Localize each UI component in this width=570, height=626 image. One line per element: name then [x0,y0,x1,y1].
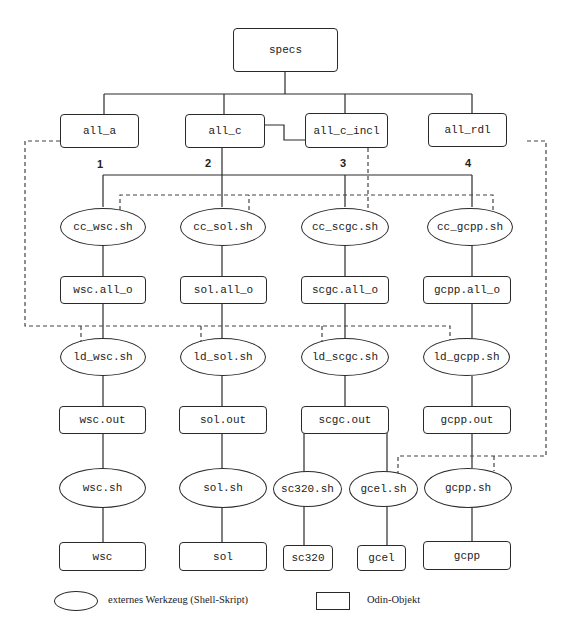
node-gcpp-all-o: gcpp.all_o [423,276,511,304]
node-all-c: all_c [185,114,265,148]
tool-gcpp-sh: gcpp.sh [424,468,512,508]
node-sol-all-o: sol.all_o [180,276,267,304]
node-specs: specs [233,28,338,72]
tool-ld-scgc: ld_scgc.sh [301,338,389,376]
build-dependency-diagram: specs all_a all_c all_c_incl all_rdl 1 2… [0,0,570,626]
node-gcpp: gcpp [423,541,511,570]
tool-gcel-sh: gcel.sh [349,471,418,507]
node-sol: sol [179,542,267,571]
legend-ellipse-icon [54,591,98,611]
node-wsc: wsc [59,542,146,571]
branch-number-2: 2 [205,157,211,169]
tool-cc-sol: cc_sol.sh [180,208,266,246]
node-scgc-out: scgc.out [301,406,389,434]
tool-ld-wsc: ld_wsc.sh [60,338,146,376]
node-wsc-all-o: wsc.all_o [60,276,146,304]
node-all-c-incl: all_c_incl [305,113,388,148]
connector-lines [0,0,570,626]
legend-ellipse-label: externes Werkzeug (Shell-Skript) [108,594,248,605]
node-all-a: all_a [60,114,139,148]
node-wsc-out: wsc.out [59,406,146,434]
node-scgc-all-o: scgc.all_o [301,276,389,304]
tool-cc-wsc: cc_wsc.sh [60,208,146,246]
legend-box-icon [316,592,350,610]
branch-number-1: 1 [97,158,103,170]
tool-cc-gcpp: cc_gcpp.sh [427,208,513,246]
node-sc320: sc320 [283,545,333,571]
legend-box-label: Odin-Objekt [367,594,420,605]
tool-ld-gcpp: ld_gcpp.sh [423,338,510,376]
tool-sol-sh: sol.sh [179,468,267,508]
tool-cc-scgc: cc_scgc.sh [301,208,389,246]
node-gcel: gcel [357,545,406,571]
tool-ld-sol: ld_sol.sh [180,338,266,376]
node-all-rdl: all_rdl [428,113,507,147]
node-gcpp-out: gcpp.out [423,406,511,434]
tool-sc320-sh: sc320.sh [273,471,342,507]
branch-number-4: 4 [465,157,471,169]
branch-number-3: 3 [340,157,346,169]
node-sol-out: sol.out [179,406,267,434]
tool-wsc-sh: wsc.sh [59,468,146,508]
